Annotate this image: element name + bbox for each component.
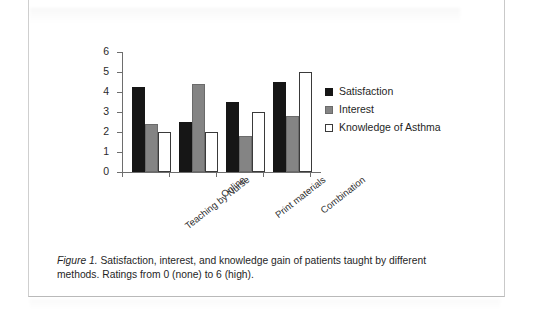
legend-item-label: Interest (339, 103, 374, 116)
bar (226, 102, 239, 172)
figure-caption: Figure 1. Satisfaction, interest, and kn… (57, 254, 457, 281)
bar-group (226, 52, 265, 172)
legend-item: Satisfaction (325, 84, 485, 99)
y-axis-tick: 4 (117, 92, 122, 93)
bar (192, 84, 205, 172)
bar (179, 122, 192, 172)
y-axis-tick: 5 (117, 72, 122, 73)
legend-item-label: Knowledge of Asthma (339, 121, 441, 134)
legend-item-label: Satisfaction (339, 85, 393, 98)
bar (299, 72, 312, 172)
y-axis-line (122, 52, 123, 172)
bar (273, 82, 286, 172)
legend-swatch-icon (325, 124, 333, 132)
bar-chart-figure: 6543210 Teaching by NurseOnlinePrint mat… (28, 28, 505, 233)
y-axis-tick-label: 0 (103, 165, 109, 178)
legend-item: Knowledge of Asthma (325, 120, 485, 135)
chart-legend: SatisfactionInterestKnowledge of Asthma (325, 84, 485, 138)
bar (252, 112, 265, 172)
y-axis-tick-label: 3 (103, 105, 109, 118)
x-axis-line (122, 172, 321, 173)
y-axis-tick-label: 4 (103, 85, 109, 98)
bar (239, 136, 252, 172)
y-axis-tick-label: 6 (103, 45, 109, 58)
y-axis-tick: 2 (117, 132, 122, 133)
bar (205, 132, 218, 172)
y-axis-tick: 6 (117, 52, 122, 53)
figure-number-label: Figure 1. (57, 255, 98, 266)
figure-caption-text: Satisfaction, interest, and knowledge ga… (57, 255, 426, 280)
x-axis-category-labels: Teaching by NurseOnlinePrint materialsCo… (122, 174, 332, 232)
bar-group (273, 52, 312, 172)
legend-swatch-icon (325, 106, 333, 114)
bar-group (179, 52, 218, 172)
scan-artifact-bottom (30, 299, 500, 309)
category-label: Print materials (273, 174, 328, 220)
plot-area: 6543210 (122, 52, 320, 172)
legend-item: Interest (325, 102, 485, 117)
y-axis-tick-label: 5 (103, 65, 109, 78)
bar (145, 124, 158, 172)
bar (158, 132, 171, 172)
y-axis-tick: 1 (117, 152, 122, 153)
bar-group (132, 52, 171, 172)
legend-swatch-icon (325, 88, 333, 96)
y-axis-tick: 3 (117, 112, 122, 113)
bar (286, 116, 299, 172)
y-axis-tick-label: 2 (103, 125, 109, 138)
y-axis-tick-label: 1 (103, 145, 109, 158)
bar (132, 87, 145, 172)
